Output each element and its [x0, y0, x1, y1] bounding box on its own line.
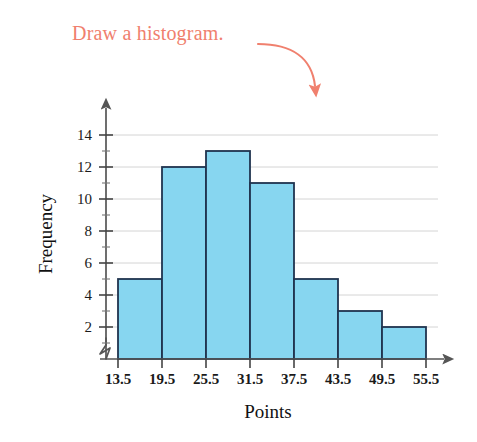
x-tick-label-6: 49.5 [369, 371, 395, 387]
y-axis-title: Frequency [35, 193, 56, 274]
y-axis-tick-labels: 14 12 10 8 6 4 2 [77, 127, 93, 335]
y-tick-label-8: 8 [85, 223, 93, 239]
x-tick-label-0: 13.5 [105, 371, 131, 387]
bar-43.5-49.5 [338, 311, 382, 359]
bar-31.5-37.5 [250, 183, 294, 359]
bar-25.5-31.5 [206, 151, 250, 359]
y-tick-label-10: 10 [77, 191, 92, 207]
x-tick-label-5: 43.5 [325, 371, 351, 387]
annotation-arrow-icon [258, 44, 315, 86]
bar-13.5-19.5 [118, 279, 162, 359]
x-tick-label-4: 37.5 [281, 371, 307, 387]
bar-49.5-55.5 [382, 327, 426, 359]
bar-19.5-25.5 [162, 167, 206, 359]
axis-break-zigzag-icon [100, 338, 110, 359]
x-tick-label-1: 19.5 [149, 371, 175, 387]
histogram-chart: 14 12 10 8 6 4 2 13.5 19.5 25.5 31.5 37.… [0, 0, 477, 442]
x-tick-label-3: 31.5 [237, 371, 263, 387]
x-axis-ticks [118, 359, 426, 368]
histogram-figure: Draw a histogram. [0, 0, 477, 442]
y-tick-label-12: 12 [77, 159, 92, 175]
bar-37.5-43.5 [294, 279, 338, 359]
y-tick-label-6: 6 [85, 255, 93, 271]
y-tick-label-4: 4 [85, 287, 93, 303]
y-tick-label-2: 2 [85, 319, 93, 335]
x-tick-label-2: 25.5 [193, 371, 219, 387]
x-tick-label-7: 55.5 [413, 371, 439, 387]
x-axis-title: Points [244, 401, 292, 422]
x-axis-tick-labels: 13.5 19.5 25.5 31.5 37.5 43.5 49.5 55.5 [105, 371, 439, 387]
y-tick-label-14: 14 [77, 127, 93, 143]
bars [118, 151, 426, 359]
